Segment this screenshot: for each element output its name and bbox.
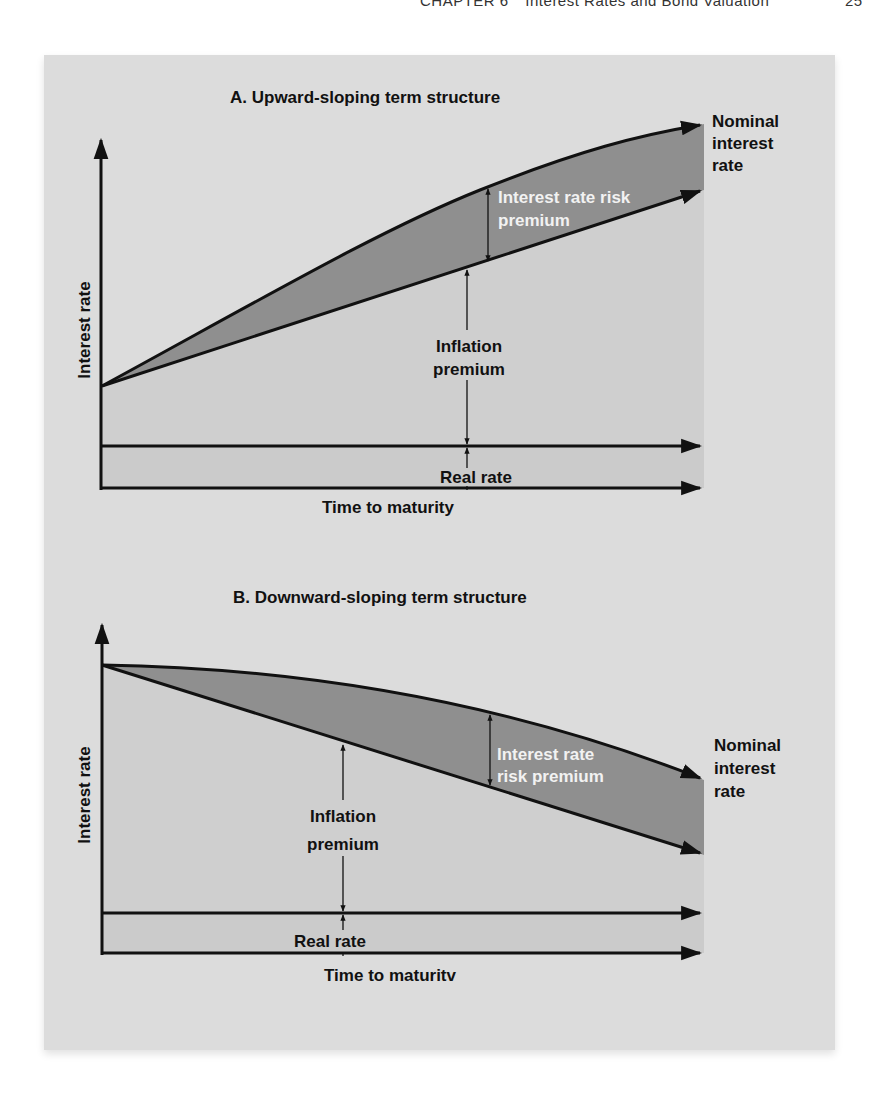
svg-text:premium: premium (307, 835, 379, 854)
svg-text:premium: premium (433, 360, 505, 379)
panel-b-nominal-label: Nominal interest rate (714, 736, 781, 801)
panel-a-title: A. Upward-sloping term structure (230, 88, 500, 107)
panel-a-x-axis-label: Time to maturity (322, 498, 454, 517)
svg-text:Nominal: Nominal (712, 112, 779, 131)
panel-a-y-axis-label: Interest rate (75, 281, 94, 378)
panel-a-nominal-label: Nominal interest rate (712, 112, 779, 175)
svg-text:Interest rate: Interest rate (497, 745, 594, 764)
svg-text:interest: interest (714, 759, 776, 778)
svg-text:rate: rate (714, 782, 745, 801)
svg-text:risk premium: risk premium (497, 767, 604, 786)
panel-a-real-rate-band (102, 446, 704, 488)
panel-b-x-axis-label: Time to maturitv (324, 966, 456, 985)
svg-text:premium: premium (498, 211, 570, 230)
svg-text:Nominal: Nominal (714, 736, 781, 755)
panel-b-real-rate-label: Real rate (294, 932, 366, 951)
term-structure-figure: A. Upward-sloping term structure Interes… (0, 0, 875, 1096)
svg-text:interest: interest (712, 134, 774, 153)
panel-b: B. Downward-sloping term structure Inter… (75, 588, 781, 985)
svg-text:rate: rate (712, 156, 743, 175)
panel-b-real-rate-band (102, 913, 704, 953)
svg-text:Inflation: Inflation (310, 807, 376, 826)
panel-a: A. Upward-sloping term structure Interes… (75, 88, 779, 517)
panel-b-y-axis-label: Interest rate (75, 746, 94, 843)
panel-a-real-rate-label: Real rate (440, 468, 512, 487)
svg-text:Inflation: Inflation (436, 337, 502, 356)
panel-b-title: B. Downward-sloping term structure (233, 588, 527, 607)
svg-text:Interest rate risk: Interest rate risk (498, 188, 631, 207)
